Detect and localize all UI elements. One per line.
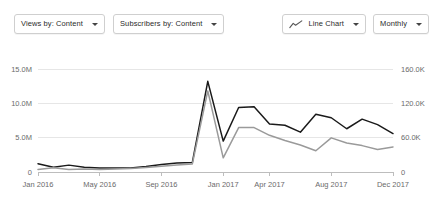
chevron-down-icon: [353, 23, 359, 26]
toolbar-left-group: Views by: Content Subscribers by: Conten…: [14, 14, 224, 34]
x-axis-tick-label: Jan 2016: [23, 180, 54, 189]
views-by-dropdown-label: Views by: Content: [21, 20, 83, 28]
subscribers-by-dropdown[interactable]: Subscribers by: Content: [113, 14, 224, 34]
chart-area: 05.0M10.0M15.0M 060.0K120.0K160.0K Jan 2…: [0, 50, 439, 222]
left-axis-tick-label: 5.0M: [15, 133, 32, 142]
left-axis-tick-label: 10.0M: [11, 99, 32, 108]
right-axis-tick-label: 60.0K: [401, 133, 421, 142]
left-axis-tick-labels: 05.0M10.0M15.0M: [11, 65, 32, 177]
series-line-subscribers: [38, 91, 393, 170]
right-axis-tick-labels: 060.0K120.0K160.0K: [401, 65, 425, 177]
views-subscribers-line-chart: 05.0M10.0M15.0M 060.0K120.0K160.0K Jan 2…: [0, 50, 439, 222]
right-axis-tick-label: 120.0K: [401, 99, 425, 108]
chart-type-dropdown[interactable]: Line Chart: [282, 14, 366, 34]
right-axis-tick-label: 160.0K: [401, 65, 425, 74]
toolbar-right-group: Line Chart Monthly: [282, 14, 429, 34]
chart-toolbar: Views by: Content Subscribers by: Conten…: [0, 0, 439, 50]
interval-dropdown[interactable]: Monthly: [373, 14, 429, 34]
x-axis-tick-labels: Jan 2016May 2016Sep 2016Jan 2017Apr 2017…: [23, 180, 409, 189]
line-chart-icon: [289, 20, 303, 29]
x-axis-tick-label: Jan 2017: [208, 180, 239, 189]
x-axis-tick-label: May 2016: [83, 180, 116, 189]
chevron-down-icon: [211, 23, 217, 26]
views-by-dropdown[interactable]: Views by: Content: [14, 14, 105, 34]
x-axis-tick-label: Dec 2017: [377, 180, 409, 189]
gridlines: [38, 69, 393, 172]
interval-dropdown-label: Monthly: [380, 20, 407, 28]
right-axis-tick-label: 0: [401, 168, 405, 177]
subscribers-by-dropdown-label: Subscribers by: Content: [120, 20, 202, 28]
series-lines: [38, 81, 393, 169]
chevron-down-icon: [92, 23, 98, 26]
x-axis-tick-label: Apr 2017: [254, 180, 284, 189]
chart-type-dropdown-label: Line Chart: [308, 20, 344, 28]
x-axis-tick-label: Aug 2017: [315, 180, 347, 189]
x-axis-tick-label: Sep 2016: [145, 180, 177, 189]
x-axis: [38, 172, 393, 176]
left-axis-tick-label: 15.0M: [11, 65, 32, 74]
left-axis-tick-label: 0: [28, 168, 32, 177]
chevron-down-icon: [416, 23, 422, 26]
